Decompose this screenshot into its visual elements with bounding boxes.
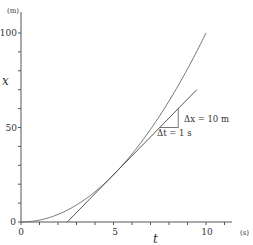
delta-x-annotation: Δx = 10 m bbox=[184, 114, 229, 124]
x-tick-label-0: 0 bbox=[18, 227, 24, 237]
x-tick-label-10: 10 bbox=[201, 227, 213, 237]
x-axis-label: t bbox=[153, 232, 158, 245]
y-tick-label-100: 100 bbox=[0, 28, 17, 38]
y-tick-label-0: 0 bbox=[10, 217, 16, 227]
tangent-line bbox=[67, 90, 197, 222]
y-unit-label: (m) bbox=[7, 7, 19, 15]
x-tick-label-5: 5 bbox=[112, 227, 118, 237]
x-unit-label: (s) bbox=[240, 229, 249, 237]
delta-t-annotation: Δt = 1 s bbox=[157, 128, 192, 138]
y-axis-label: x bbox=[2, 74, 9, 88]
y-tick-label-50: 50 bbox=[6, 123, 18, 133]
chart: (m) 100 50 0 x 0 5 10 (s) t Δx = 10 m Δt… bbox=[0, 0, 253, 245]
